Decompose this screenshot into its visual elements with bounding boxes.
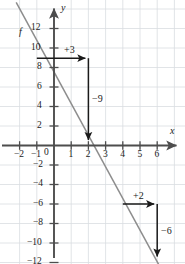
- x-tick-label-1: 1: [69, 150, 74, 160]
- annotation-label-rise-minus9: −9: [92, 94, 103, 104]
- y-axis-label: y: [61, 3, 65, 13]
- y-tick-label-4: 4: [37, 101, 42, 111]
- y-tick-label-8: 8: [37, 62, 42, 72]
- function-label-f: f: [19, 27, 22, 37]
- x-tick-label-5: 5: [137, 150, 142, 160]
- annotation-label-run-plus3: +3: [64, 45, 75, 55]
- x-tick-label-2: 2: [86, 150, 91, 160]
- y-tick-label-minus10: −10: [27, 238, 42, 248]
- x-tick-label-minus2: −2: [14, 150, 24, 160]
- y-tick-label-minus4: −4: [33, 179, 43, 189]
- y-tick-label-6: 6: [37, 82, 42, 92]
- x-tick-label-3: 3: [103, 150, 108, 160]
- x-tick-label-minus1: −1: [31, 150, 41, 160]
- y-tick-label-12: 12: [31, 23, 41, 33]
- x-tick-label-4: 4: [120, 150, 125, 160]
- y-tick-label-minus12: −12: [27, 257, 42, 264]
- y-tick-label-10: 10: [31, 43, 41, 53]
- annotation-label-run-plus2: +2: [133, 191, 144, 201]
- graph-figure: y x f 12 10 8 6 4 2 −2 −4 −6 −8 −10 −12 …: [0, 0, 185, 264]
- x-axis-label: x: [170, 126, 174, 136]
- x-tick-label-6: 6: [155, 150, 160, 160]
- y-tick-label-minus6: −6: [33, 199, 43, 209]
- y-tick-label-minus8: −8: [33, 218, 43, 228]
- annotation-label-rise-minus6: −6: [161, 226, 172, 236]
- x-tick-label-0: 0: [44, 148, 49, 158]
- graph-canvas: [0, 0, 185, 264]
- y-tick-label-minus2: −2: [33, 160, 43, 170]
- y-tick-label-2: 2: [37, 121, 42, 131]
- axes: [2, 9, 177, 259]
